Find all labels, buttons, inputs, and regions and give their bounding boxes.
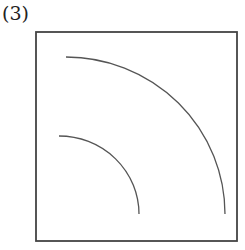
outer-arc	[66, 57, 225, 214]
inner-arc	[59, 136, 139, 214]
diagram	[0, 0, 245, 250]
